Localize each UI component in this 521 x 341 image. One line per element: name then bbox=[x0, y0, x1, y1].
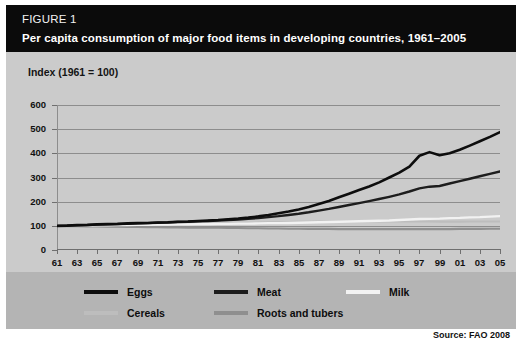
legend-swatch-icon bbox=[346, 290, 380, 294]
y-tick-label: 500 bbox=[16, 123, 46, 134]
legend-swatch-icon bbox=[214, 290, 248, 294]
figure-label: FIGURE 1 bbox=[22, 12, 516, 27]
x-tick-label: 69 bbox=[128, 257, 148, 268]
source-note: Source: FAO 2008 bbox=[433, 330, 510, 340]
legend-row: CerealsRoots and tubers bbox=[6, 302, 516, 324]
legend-label: Meat bbox=[257, 286, 281, 298]
chart-panel: Index (1961 = 100) 0100200300400500600 6… bbox=[6, 52, 516, 272]
x-tick-label: 97 bbox=[409, 257, 429, 268]
legend-label: Cereals bbox=[127, 307, 165, 319]
legend-item-cereals[interactable]: Cereals bbox=[84, 302, 165, 324]
x-tick-label: 95 bbox=[389, 257, 409, 268]
y-tick-label: 200 bbox=[16, 196, 46, 207]
legend-item-milk[interactable]: Milk bbox=[346, 281, 409, 303]
y-tick-label: 100 bbox=[16, 220, 46, 231]
source-strip: Source: FAO 2008 bbox=[6, 329, 516, 341]
x-tick-label: 65 bbox=[87, 257, 107, 268]
x-tick-label: 79 bbox=[228, 257, 248, 268]
x-tick-label: 77 bbox=[208, 257, 228, 268]
y-tick-label: 600 bbox=[16, 99, 46, 110]
series-line-eggs bbox=[57, 132, 500, 226]
x-tick-label: 73 bbox=[168, 257, 188, 268]
y-tick-label: 300 bbox=[16, 172, 46, 183]
x-tick-label: 83 bbox=[269, 257, 289, 268]
y-tick-label: 400 bbox=[16, 147, 46, 158]
x-tick-label: 63 bbox=[67, 257, 87, 268]
legend-swatch-icon bbox=[84, 311, 118, 315]
legend-swatch-icon bbox=[214, 311, 248, 315]
legend-item-eggs[interactable]: Eggs bbox=[84, 281, 153, 303]
x-tick-label: 99 bbox=[430, 257, 450, 268]
x-tick-label: 89 bbox=[329, 257, 349, 268]
legend-item-meat[interactable]: Meat bbox=[214, 281, 281, 303]
x-tick-label: 01 bbox=[450, 257, 470, 268]
x-tick-label: 85 bbox=[289, 257, 309, 268]
x-tick-label: 75 bbox=[188, 257, 208, 268]
x-tick-label: 91 bbox=[349, 257, 369, 268]
legend-label: Milk bbox=[389, 286, 409, 298]
figure-title: Per capita consumption of major food ite… bbox=[22, 30, 516, 46]
x-tick-label: 81 bbox=[248, 257, 268, 268]
y-axis-title: Index (1961 = 100) bbox=[28, 66, 118, 78]
x-tick-label: 87 bbox=[309, 257, 329, 268]
x-tick-label: 93 bbox=[369, 257, 389, 268]
x-tick-label: 71 bbox=[148, 257, 168, 268]
series-lines bbox=[57, 105, 500, 250]
page-margin-right bbox=[516, 0, 521, 341]
y-tick-label: 0 bbox=[16, 244, 46, 255]
legend-swatch-icon bbox=[84, 290, 118, 294]
legend-label: Eggs bbox=[127, 286, 153, 298]
x-tick-label: 03 bbox=[470, 257, 490, 268]
legend-label: Roots and tubers bbox=[257, 307, 343, 319]
x-tick-label: 61 bbox=[47, 257, 67, 268]
chart-legend: EggsMeatMilkCerealsRoots and tubers bbox=[6, 272, 516, 329]
x-tick-mark bbox=[500, 249, 501, 254]
figure-header: FIGURE 1 Per capita consumption of major… bbox=[6, 5, 516, 52]
figure-container: FIGURE 1 Per capita consumption of major… bbox=[0, 0, 521, 341]
x-tick-label: 05 bbox=[490, 257, 510, 268]
x-tick-label: 67 bbox=[107, 257, 127, 268]
legend-row: EggsMeatMilk bbox=[6, 281, 516, 303]
legend-item-roots-and-tubers[interactable]: Roots and tubers bbox=[214, 302, 343, 324]
plot-area: 0100200300400500600 61636567697173757779… bbox=[57, 105, 500, 250]
series-line-roots-and-tubers bbox=[57, 226, 500, 229]
